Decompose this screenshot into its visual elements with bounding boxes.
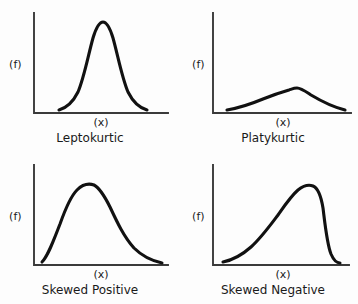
- panel-caption-skewed-positive: Skewed Positive: [10, 283, 170, 297]
- curve-platykurtic: [227, 88, 345, 110]
- panel-caption-platykurtic: Platykurtic: [193, 131, 353, 145]
- distribution-shapes-figure: (f) (x) Leptokurtic (f) (x) Platykurtic …: [0, 0, 358, 304]
- y-axis-label: (f): [192, 210, 205, 223]
- axis-lines: [213, 13, 351, 113]
- panel-leptokurtic: (f) (x) Leptokurtic: [0, 0, 179, 152]
- x-axis-label: (x): [217, 116, 349, 129]
- x-axis-label: (x): [217, 268, 349, 281]
- plot-leptokurtic: [0, 0, 179, 122]
- plot-skewed-negative: [179, 152, 358, 274]
- plot-skewed-positive: [0, 152, 179, 274]
- curve-skewed-negative: [223, 185, 340, 263]
- axis-lines: [34, 165, 168, 265]
- plot-platykurtic: [179, 0, 358, 122]
- curve-skewed-positive: [42, 184, 162, 263]
- x-axis-label: (x): [34, 268, 168, 281]
- panel-skewed-negative: (f) (x) Skewed Negative: [179, 152, 358, 304]
- panel-caption-skewed-negative: Skewed Negative: [193, 283, 353, 297]
- x-axis-label: (x): [34, 116, 168, 129]
- curve-leptokurtic: [59, 22, 147, 110]
- y-axis-label: (f): [9, 58, 22, 71]
- panel-platykurtic: (f) (x) Platykurtic: [179, 0, 358, 152]
- axis-lines: [34, 13, 168, 113]
- panel-skewed-positive: (f) (x) Skewed Positive: [0, 152, 179, 304]
- panel-caption-leptokurtic: Leptokurtic: [10, 131, 170, 145]
- y-axis-label: (f): [192, 58, 205, 71]
- y-axis-label: (f): [9, 210, 22, 223]
